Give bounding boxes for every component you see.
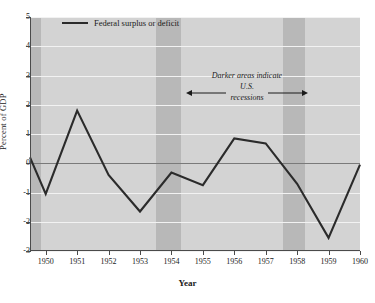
x-tick-mark	[109, 251, 110, 255]
plot-area	[30, 17, 360, 251]
y-tick-mark	[26, 251, 31, 252]
x-tick-mark	[171, 251, 172, 255]
chart-legend: Federal surplus or deficit	[62, 18, 179, 28]
y-tick-mark	[26, 17, 31, 18]
legend-line-swatch	[62, 22, 88, 24]
x-tick-label: 1955	[195, 257, 211, 266]
x-tick-label: 1952	[101, 257, 117, 266]
annotation-line-1: Darker areas indicate	[186, 70, 308, 81]
series-federal-surplus-or-deficit	[30, 17, 360, 251]
x-tick-mark	[266, 251, 267, 255]
y-tick-mark	[26, 76, 31, 77]
y-tick-mark	[26, 134, 31, 135]
x-tick-label: 1950	[38, 257, 54, 266]
legend-label: Federal surplus or deficit	[94, 18, 179, 28]
x-tick-label: 1958	[289, 257, 305, 266]
x-tick-mark	[360, 251, 361, 255]
y-tick-mark	[26, 46, 31, 47]
x-tick-mark	[77, 251, 78, 255]
x-axis-label: Year	[0, 278, 375, 288]
x-tick-mark	[234, 251, 235, 255]
y-tick-mark	[26, 222, 31, 223]
x-tick-label: 1959	[321, 257, 337, 266]
annotation-line-2-row: U.S. recessions	[186, 81, 308, 103]
x-tick-mark	[297, 251, 298, 255]
x-tick-mark	[140, 251, 141, 255]
x-tick-label: 1954	[163, 257, 179, 266]
x-tick-mark	[203, 251, 204, 255]
arrow-right-icon	[268, 88, 308, 97]
recession-annotation: Darker areas indicate U.S. recessions	[186, 70, 308, 103]
x-tick-label: 1953	[132, 257, 148, 266]
x-tick-mark	[46, 251, 47, 255]
x-tick-mark	[329, 251, 330, 255]
x-tick-label: 1960	[352, 257, 368, 266]
x-tick-label: 1951	[69, 257, 85, 266]
chart-figure: Percent of GDP 543210-1-2-3 195019511952…	[0, 0, 375, 303]
x-tick-label: 1956	[226, 257, 242, 266]
arrow-left-icon	[186, 88, 226, 97]
y-tick-mark	[26, 193, 31, 194]
y-tick-mark	[26, 163, 31, 164]
gridline	[30, 251, 360, 252]
x-tick-label: 1957	[258, 257, 274, 266]
y-tick-mark	[26, 105, 31, 106]
annotation-line-2: U.S. recessions	[229, 81, 265, 103]
